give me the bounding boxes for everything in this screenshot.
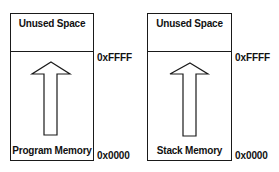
- up-arrow-icon: [0, 0, 279, 172]
- high-address-label: 0xFFFF: [235, 52, 270, 63]
- low-address-label: 0x0000: [235, 150, 268, 161]
